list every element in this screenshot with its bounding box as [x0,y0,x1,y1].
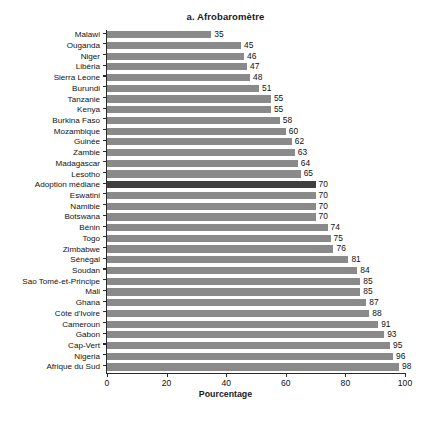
bar [107,74,250,81]
bar [107,181,316,188]
bar-value-label: 88 [372,308,381,319]
bar-value-label: 55 [274,104,283,115]
bar-value-label: 70 [319,211,328,222]
bar [107,53,244,60]
bar-value-label: 91 [381,319,390,330]
bar-value-label: 70 [319,179,328,190]
x-axis-tick-label: 80 [325,378,365,388]
bar-row: Cap-Vert95 [107,341,405,352]
bar-row: Cameroun91 [107,319,405,330]
bar-value-label: 47 [250,61,259,72]
x-axis-tick [167,373,168,377]
bar-value-label: 45 [244,40,253,51]
bar-row: Ghana87 [107,298,405,309]
bar [107,31,211,38]
bar [107,192,316,199]
bar-row: Sao Tomé-et-Principe85 [107,277,405,288]
bar-value-label: 85 [363,276,372,287]
x-axis-tick-label: 0 [87,378,127,388]
category-label: Adoption médiane [35,179,100,190]
bar [107,63,247,70]
bar-row: Sierra Leone48 [107,73,405,84]
chart-figure: a. Afrobaromètre Malawi35Ouganda45Niger4… [0,0,427,421]
bar-value-label: 95 [393,340,402,351]
bar-value-label: 85 [363,286,372,297]
category-label: Tanzanie [68,94,100,105]
bar [107,203,316,210]
category-label: Afrique du Sud [46,361,100,372]
bar-row: Tanzanie55 [107,94,405,105]
category-label: Libéria [76,61,100,72]
bar-value-label: 46 [247,51,256,62]
bar-row: Mozambique60 [107,126,405,137]
bar-row: Togo75 [107,234,405,245]
bar-value-label: 70 [319,190,328,201]
bar-value-label: 81 [351,254,360,265]
x-axis-tick [107,373,108,377]
bar [107,245,333,252]
bar-row: Afrique du Sud98 [107,362,405,373]
bar-row: Soudan84 [107,266,405,277]
category-label: Ghana [76,297,100,308]
bar [107,224,328,231]
bar-value-label: 98 [402,361,411,372]
bar [107,117,280,124]
bar [107,170,301,177]
x-axis-tick-label: 40 [206,378,246,388]
x-axis-tick-label: 20 [147,378,187,388]
bar-value-label: 51 [262,83,271,94]
bar [107,85,259,92]
bar-value-label: 84 [360,265,369,276]
bar-row: Guinée62 [107,137,405,148]
x-axis-tick [226,373,227,377]
bar [107,342,390,349]
bar [107,95,271,102]
bar [107,106,271,113]
bar [107,321,378,328]
bar-row: Gabon93 [107,330,405,341]
category-label: Nigeria [74,351,100,362]
bar-value-label: 48 [253,72,262,83]
bar-row: Kenya55 [107,105,405,116]
bar-value-label: 64 [301,158,310,169]
bar-value-label: 55 [274,93,283,104]
category-label: Guinée [74,136,100,147]
category-label: Burkina Faso [52,115,100,126]
bar-value-label: 60 [289,126,298,137]
category-label: Côte d'Ivoire [55,308,100,319]
bar [107,149,295,156]
bar [107,138,292,145]
bar-row: Madagascar64 [107,159,405,170]
bar [107,213,316,220]
bar-value-label: 87 [369,297,378,308]
bar [107,310,369,317]
bar-row: Lesotho65 [107,169,405,180]
category-label: Cameroun [62,319,100,330]
category-label: Malawi [75,29,100,40]
bar-value-label: 96 [396,351,405,362]
bar [107,42,241,49]
bar [107,353,393,360]
bar-row: Botswana70 [107,212,405,223]
bar-value-label: 65 [304,168,313,179]
chart-title: a. Afrobaromètre [0,11,427,22]
bar-row: Nigeria96 [107,352,405,363]
category-label: Cap-Vert [68,340,100,351]
category-label: Mali [85,286,100,297]
bar-row: Mali85 [107,287,405,298]
category-label: Zimbabwe [63,244,100,255]
bar [107,299,366,306]
bar [107,235,331,242]
x-axis-tick [286,373,287,377]
x-axis-tick [345,373,346,377]
bar [107,160,298,167]
bar-value-label: 93 [387,329,396,340]
category-label: Kenya [77,104,100,115]
bar [107,256,348,263]
bar-value-label: 75 [334,233,343,244]
category-label: Ouganda [67,40,100,51]
bar-row: Adoption médiane70 [107,180,405,191]
category-label: Zambie [73,147,100,158]
bar [107,363,399,370]
bar-value-label: 63 [298,147,307,158]
